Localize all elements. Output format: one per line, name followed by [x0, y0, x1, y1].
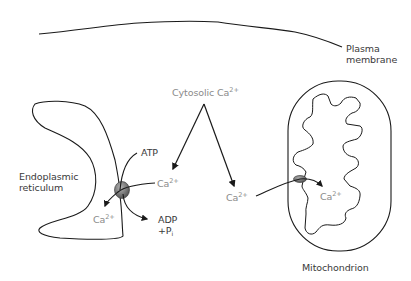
plasma-membrane-label-line2: membrane: [346, 54, 397, 65]
plasma-membrane-label-line1: Plasma: [346, 43, 397, 54]
ca-mito-out-label: Ca2+: [226, 192, 248, 203]
cytosolic-to-er-arrow: [173, 104, 204, 169]
cytosolic-ca-text: Cytosolic Ca: [172, 87, 229, 98]
mitochondrion-text: Mitochondrion: [302, 262, 369, 273]
ca-er-lumen-charge: 2+: [105, 213, 114, 221]
ca-er-lumen-label: Ca2+: [93, 214, 115, 225]
mitochondrion: [288, 81, 391, 251]
plasma-membrane: [39, 21, 342, 47]
ca-er-lumen-text: Ca: [93, 214, 105, 225]
adp-pi-label: ADP +Pi: [158, 214, 177, 236]
pi-line: +Pi: [158, 225, 177, 236]
ca-mito-in-charge: 2+: [332, 190, 341, 198]
ca-mito-in-arrow: [256, 179, 322, 196]
er-label-line1: Endoplasmic: [19, 171, 78, 182]
mitochondrion-label: Mitochondrion: [302, 262, 369, 273]
pi-subscript: i: [172, 230, 174, 237]
ca-er-in-line: [105, 183, 155, 206]
atp-label: ATP: [141, 147, 158, 158]
ca-mito-in-text: Ca: [320, 191, 332, 202]
ca-mito-in-label: Ca2+: [320, 191, 342, 202]
plasma-membrane-label: Plasma membrane: [346, 43, 397, 65]
ca-mito-out-charge: 2+: [238, 191, 247, 199]
er-label: Endoplasmic reticulum: [19, 171, 78, 193]
ca-er-in-text: Ca: [157, 178, 169, 189]
ca-mito-out-text: Ca: [226, 192, 238, 203]
pi-text: +P: [158, 225, 172, 236]
ca-er-in-charge: 2+: [169, 177, 178, 185]
adp-arrow: [123, 194, 147, 219]
atp-text: ATP: [141, 147, 158, 158]
cytosolic-to-mito-arrow: [204, 104, 234, 186]
ca-er-in-label: Ca2+: [157, 178, 179, 189]
cytosolic-ca-charge: 2+: [229, 86, 238, 94]
cytosolic-ca-label: Cytosolic Ca2+: [172, 87, 239, 98]
er-label-line2: reticulum: [19, 182, 78, 193]
adp-text: ADP: [158, 214, 177, 225]
